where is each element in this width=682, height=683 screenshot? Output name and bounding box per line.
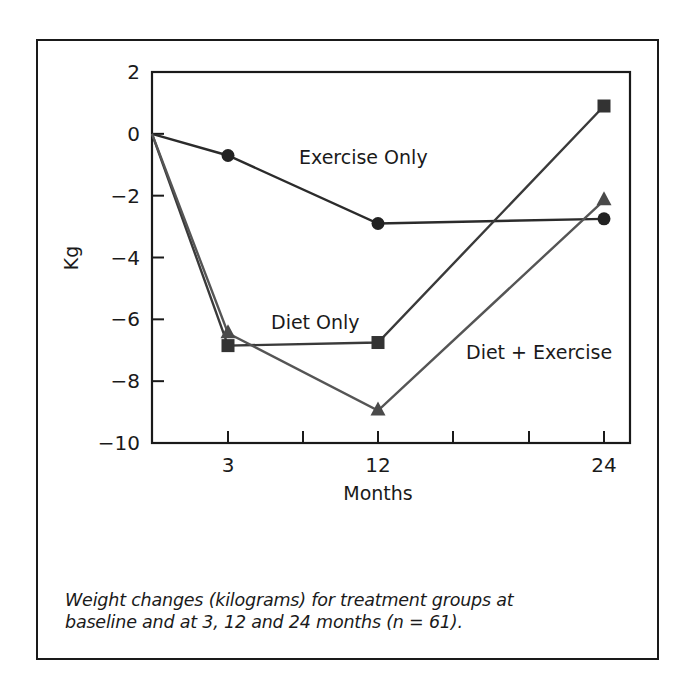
figure-caption: Weight changes (kilograms) for treatment… xyxy=(65,589,625,633)
x-axis-title: Months xyxy=(343,482,412,504)
series-label-exercise-only: Exercise Only xyxy=(299,146,428,168)
x-tick-label: 24 xyxy=(591,453,616,477)
y-axis-ticks: 20−2−4−6−8−10 xyxy=(98,60,164,455)
series-label-diet-exercise: Diet + Exercise xyxy=(466,341,612,363)
x-tick-label: 12 xyxy=(365,453,390,477)
y-tick-label: −10 xyxy=(98,431,140,455)
y-tick-label: −6 xyxy=(111,307,140,331)
y-tick-label: −8 xyxy=(111,369,140,393)
plot-area-border xyxy=(152,72,630,443)
axes xyxy=(152,72,630,443)
data-point-square xyxy=(222,339,235,352)
caption-line-2: baseline and at 3, 12 and 24 months (n =… xyxy=(65,611,625,633)
data-point-square xyxy=(372,336,385,349)
caption-line-1: Weight changes (kilograms) for treatment… xyxy=(65,589,625,611)
y-tick-label: −2 xyxy=(111,184,140,208)
series-label-diet-only: Diet Only xyxy=(271,311,360,333)
y-tick-label: 0 xyxy=(127,122,140,146)
y-axis-title: Kg xyxy=(60,246,82,271)
line-chart: 20−2−4−6−8−10 31224 Exercise Only Diet O… xyxy=(0,0,682,683)
data-point-circle xyxy=(222,149,235,162)
data-point-triangle xyxy=(597,191,612,205)
x-axis-ticks: 31224 xyxy=(222,431,617,477)
data-point-square xyxy=(598,100,611,113)
x-tick-label: 3 xyxy=(222,453,235,477)
y-tick-label: 2 xyxy=(127,60,140,84)
y-tick-label: −4 xyxy=(111,246,140,270)
data-point-circle xyxy=(372,217,385,230)
data-point-circle xyxy=(598,212,611,225)
